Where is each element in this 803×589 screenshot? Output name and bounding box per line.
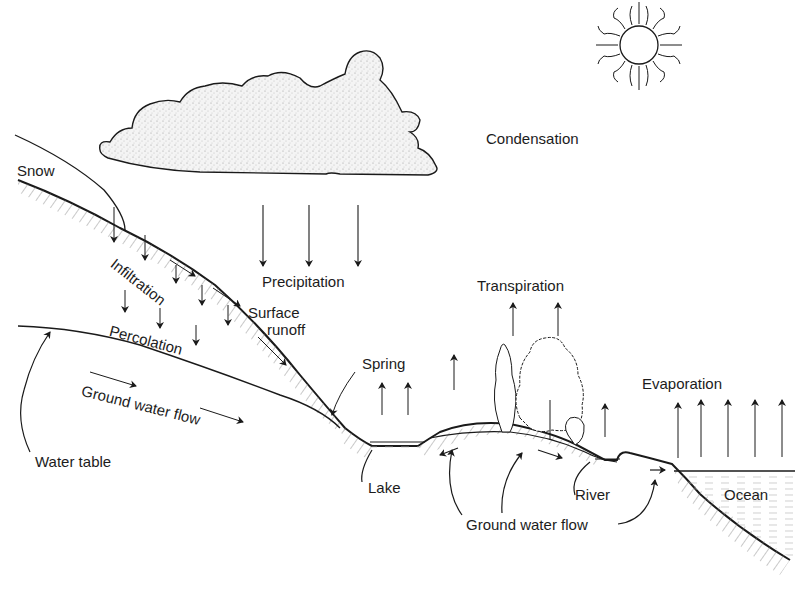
evaporation-arrows [678,400,782,458]
label-surface-runoff-line2: runoff [267,321,305,338]
label-transpiration: Transpiration [477,277,564,294]
label-snow: Snow [17,162,55,179]
label-water-table: Water table [35,453,111,470]
sun-icon [596,2,682,90]
label-ground-water-flow-lower: Ground water flow [466,516,588,533]
water-table-pointer [21,332,50,452]
label-evaporation: Evaporation [642,375,722,392]
hydrologic-cycle-diagram [0,0,803,589]
lake-water [370,442,425,448]
label-lake: Lake [368,479,401,496]
cloud-icon [100,51,437,175]
ground-water-flow-pointers-lower [440,448,665,524]
tree-icon [494,337,584,445]
label-spring: Spring [362,355,405,372]
spring-arrows [332,372,408,415]
label-surface-runoff-line1: Surface [248,304,300,321]
label-ocean: Ocean [724,486,768,503]
label-condensation: Condensation [486,130,579,147]
label-river: River [575,486,610,503]
label-precipitation: Precipitation [262,273,345,290]
precipitation-arrows [263,205,358,266]
ocean-water [674,471,795,560]
